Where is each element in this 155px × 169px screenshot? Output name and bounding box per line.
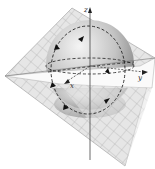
- x-axis-label: x: [70, 82, 74, 90]
- sphere-plane-diagram: z x y: [0, 0, 155, 169]
- z-arrow-icon: [88, 7, 92, 13]
- z-axis-label: z: [83, 6, 88, 14]
